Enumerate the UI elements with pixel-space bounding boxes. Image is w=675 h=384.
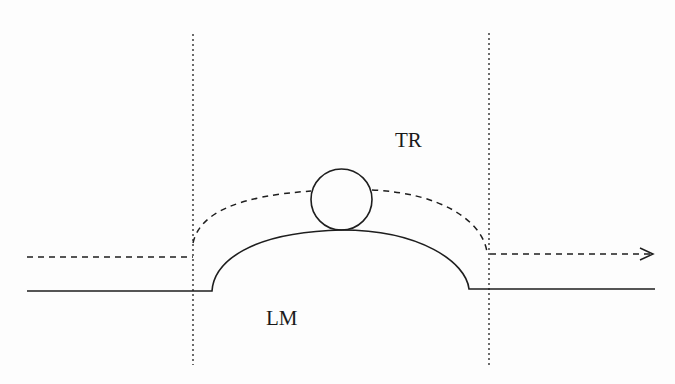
particle-circle (311, 169, 372, 230)
trajectory-arc-left (193, 191, 311, 243)
diagram-canvas: TR LM (0, 0, 675, 384)
diagram-svg (0, 0, 675, 384)
trajectory-arc-right (372, 190, 487, 252)
surface-bump-line (27, 230, 655, 291)
label-lm: LM (266, 308, 298, 329)
label-tr: TR (395, 130, 422, 151)
